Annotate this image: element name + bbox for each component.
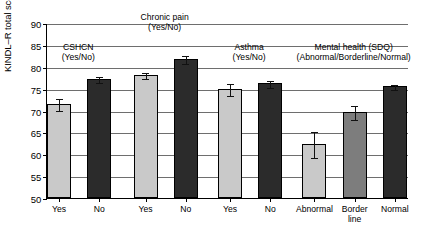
error-cap-3-low xyxy=(182,64,189,65)
y-tick-label-55: 55 xyxy=(31,172,41,183)
x-tick-mark-6 xyxy=(314,198,315,202)
bar-4 xyxy=(218,89,242,198)
y-tick-label-80: 80 xyxy=(31,62,41,73)
error-cap-5-low xyxy=(267,88,274,89)
error-cap-7-high xyxy=(351,106,358,107)
y-tick-label-70: 70 xyxy=(31,106,41,117)
x-axis-label-4: Yes xyxy=(223,205,237,215)
error-cap-1-low xyxy=(96,83,103,84)
bar-2 xyxy=(134,75,158,198)
bar-1 xyxy=(87,79,111,198)
x-axis-label-2: Yes xyxy=(139,205,153,215)
error-cap-4-low xyxy=(227,96,234,97)
y-tick-label-90: 90 xyxy=(31,19,41,30)
x-tick-mark-4 xyxy=(230,198,231,202)
error-bar-7 xyxy=(355,106,356,120)
gridline-90 xyxy=(47,24,408,25)
y-tick-label-60: 60 xyxy=(31,150,41,161)
x-axis-label-7: Borderline xyxy=(342,205,368,224)
bar-5 xyxy=(258,83,282,198)
bar-0 xyxy=(47,104,71,198)
y-tick-label-85: 85 xyxy=(31,40,41,51)
error-cap-1-high xyxy=(96,77,103,78)
error-cap-0-low xyxy=(56,111,63,112)
x-axis-label-6: Abnormal xyxy=(296,205,333,215)
y-tick-mark-85 xyxy=(43,46,47,47)
y-tick-mark-90 xyxy=(43,24,47,25)
y-tick-label-65: 65 xyxy=(31,128,41,139)
error-bar-5 xyxy=(270,81,271,88)
y-tick-label-50: 50 xyxy=(31,194,41,205)
kindl-r-bar-chart: KINDL–R total score 505560657075808590 Y… xyxy=(0,0,425,246)
error-cap-5-high xyxy=(267,81,274,82)
error-bar-4 xyxy=(230,84,231,96)
group-header-2: Asthma(Yes/No) xyxy=(233,42,266,62)
error-cap-2-low xyxy=(142,79,149,80)
error-cap-6-low xyxy=(311,158,318,159)
error-bar-6 xyxy=(314,132,315,158)
group-header-1: Chronic pain(Yes/No) xyxy=(141,12,189,32)
error-cap-3-high xyxy=(182,56,189,57)
x-tick-mark-8 xyxy=(395,198,396,202)
group-header-0: CSHCN(Yes/No) xyxy=(62,42,95,62)
y-tick-label-75: 75 xyxy=(31,84,41,95)
y-tick-mark-75 xyxy=(43,90,47,91)
x-axis-label-3: No xyxy=(180,205,191,215)
group-header-3: Mental health (SDQ)(Abnormal/Borderline/… xyxy=(297,42,411,62)
bar-3 xyxy=(174,59,198,198)
x-axis-label-0: Yes xyxy=(52,205,66,215)
error-cap-7-low xyxy=(351,120,358,121)
x-tick-mark-7 xyxy=(355,198,356,202)
x-tick-mark-3 xyxy=(186,198,187,202)
x-tick-mark-2 xyxy=(146,198,147,202)
x-axis-label-1: No xyxy=(94,205,105,215)
error-cap-2-high xyxy=(142,73,149,74)
x-tick-mark-5 xyxy=(270,198,271,202)
bar-8 xyxy=(383,86,407,198)
error-bar-0 xyxy=(59,99,60,111)
error-cap-6-high xyxy=(311,132,318,133)
gridline-80 xyxy=(47,68,408,69)
y-tick-mark-50 xyxy=(43,199,47,200)
error-cap-8-low xyxy=(391,90,398,91)
y-axis-label: KINDL–R total score xyxy=(2,0,13,72)
error-bar-3 xyxy=(186,56,187,64)
error-cap-0-high xyxy=(56,99,63,100)
y-tick-mark-80 xyxy=(43,68,47,69)
x-tick-mark-1 xyxy=(99,198,100,202)
error-cap-4-high xyxy=(227,84,234,85)
bar-7 xyxy=(343,112,367,198)
x-tick-mark-0 xyxy=(59,198,60,202)
error-cap-8-high xyxy=(391,85,398,86)
x-axis-label-5: No xyxy=(265,205,276,215)
x-axis-label-8: Normal xyxy=(381,205,409,215)
